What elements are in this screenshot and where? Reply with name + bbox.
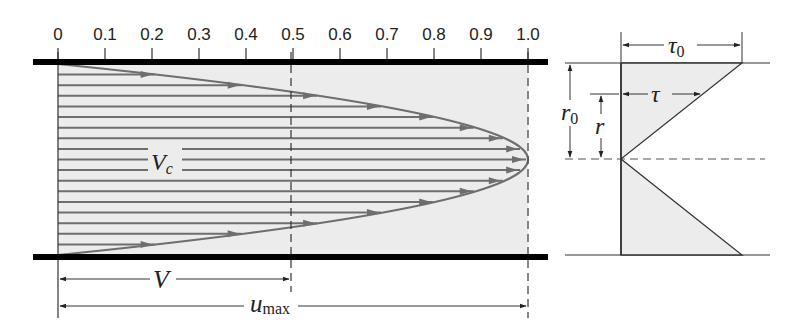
axis-tick-label: 0 [53, 25, 62, 44]
shear-upper-triangle [621, 63, 742, 159]
pipe-wall-bottom [33, 254, 548, 260]
shear-stress-diagram: τ0 τ r0 r [561, 32, 770, 255]
axis-tick-label: 0.4 [234, 25, 258, 44]
pipe-wall-top [33, 59, 548, 65]
axis-tick-label: 0.5 [281, 25, 305, 44]
axis-tick-label: 0.6 [328, 25, 352, 44]
axis-tick-label: 0.3 [187, 25, 211, 44]
pipe-radius-label: r0 [561, 99, 578, 127]
axis-tick-label: 0.8 [422, 25, 446, 44]
max-velocity-label: umax [250, 290, 290, 317]
axis-tick-label: 1.0 [516, 25, 540, 44]
axis-ticks: 00.10.20.30.40.50.60.70.80.91.0 [53, 25, 540, 60]
radial-position-label: r [595, 113, 605, 139]
pipe-flow-diagram: 00.10.20.30.40.50.60.70.80.91.0 Vc V uma… [0, 0, 790, 334]
axis-tick-label: 0.2 [140, 25, 164, 44]
axis-tick-label: 0.1 [93, 25, 117, 44]
shear-stress-label: τ [651, 81, 661, 107]
shear-lower-triangle [621, 159, 742, 255]
mean-velocity-label: V [153, 265, 172, 294]
axis-tick-label: 0.9 [469, 25, 493, 44]
wall-shear-stress-label: τ0 [668, 32, 685, 60]
velocity-profile: 00.10.20.30.40.50.60.70.80.91.0 Vc V uma… [33, 25, 548, 318]
axis-tick-label: 0.7 [375, 25, 399, 44]
